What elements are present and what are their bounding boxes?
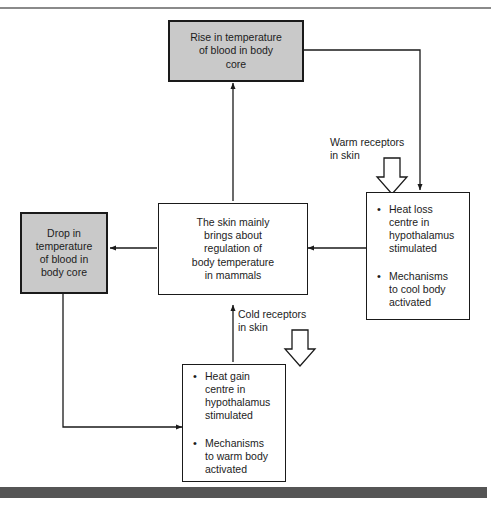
box-heat-loss-centre[interactable]: • Heat loss centre in hypothalamus stimu…	[366, 192, 470, 320]
heat-gain-bullet-2: Mechanisms to warm body activated	[205, 437, 268, 477]
bottom-divider-bar	[0, 487, 487, 498]
list-item: • Heat gain centre in hypothalamus stimu…	[193, 370, 270, 423]
list-item: • Mechanisms to warm body activated	[193, 437, 268, 477]
heat-loss-bullet-2: Mechanisms to cool body activated	[389, 270, 448, 310]
box-rise-in-temperature[interactable]: Rise in temperature of blood in body cor…	[168, 20, 304, 82]
connector-rise-to-heat-loss	[303, 50, 420, 190]
warm-receptors-block-arrow-icon	[377, 158, 407, 194]
heat-gain-bullet-1: Heat gain centre in hypothalamus stimula…	[205, 370, 270, 423]
caption-cold-receptors: Cold receptors in skin	[238, 308, 306, 334]
cold-receptors-block-arrow-icon	[285, 330, 315, 366]
bullet-icon: •	[193, 437, 205, 450]
box-centre-label: The skin mainly brings about regulation …	[192, 216, 274, 282]
bullet-icon: •	[193, 370, 205, 383]
box-skin-regulation[interactable]: The skin mainly brings about regulation …	[158, 203, 308, 295]
box-rise-label: Rise in temperature of blood in body cor…	[190, 31, 282, 71]
box-drop-in-temperature[interactable]: Drop in temperature of blood in body cor…	[20, 212, 108, 294]
list-item: • Heat loss centre in hypothalamus stimu…	[377, 203, 454, 256]
connector-drop-to-heat-gain	[63, 293, 182, 427]
box-drop-label: Drop in temperature of blood in body cor…	[36, 227, 93, 280]
bullet-icon: •	[377, 270, 389, 283]
bullet-icon: •	[377, 203, 389, 216]
heat-loss-bullet-1: Heat loss centre in hypothalamus stimula…	[389, 203, 454, 256]
list-item: • Mechanisms to cool body activated	[377, 270, 448, 310]
box-heat-gain-centre[interactable]: • Heat gain centre in hypothalamus stimu…	[182, 364, 286, 482]
diagram-page: Rise in temperature of blood in body cor…	[0, 0, 491, 508]
caption-warm-receptors: Warm receptors in skin	[330, 136, 404, 162]
